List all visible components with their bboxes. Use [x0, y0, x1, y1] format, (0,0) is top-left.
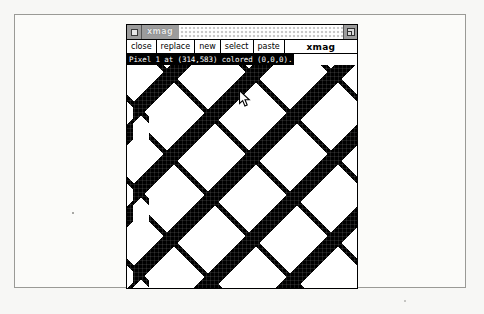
menu-item-replace[interactable]: replace — [157, 40, 196, 53]
scanned-page-background: xmag close replace new select paste xmag… — [0, 0, 484, 314]
menu-item-new[interactable]: new — [195, 40, 221, 53]
menu-item-paste[interactable]: paste — [254, 40, 285, 53]
magnified-pixel-view[interactable] — [127, 65, 357, 288]
pixel-lattice-pattern — [127, 65, 357, 288]
maximize-glyph — [347, 28, 355, 36]
titlebar-stipple-area[interactable] — [179, 25, 343, 39]
menu-item-select[interactable]: select — [221, 40, 254, 53]
xmag-window[interactable]: xmag close replace new select paste xmag… — [126, 24, 358, 289]
maximize-icon[interactable] — [343, 25, 357, 39]
menubar: close replace new select paste xmag — [127, 40, 357, 54]
pixel-info-text: Pixel 1 at (314,583) colored (0,0,0). — [127, 54, 294, 65]
window-title: xmag — [142, 25, 179, 39]
window-titlebar[interactable]: xmag — [127, 25, 357, 40]
window-menu-icon[interactable] — [127, 25, 142, 39]
scan-artifact-speck — [404, 300, 406, 302]
status-line: Pixel 1 at (314,583) colored (0,0,0). — [127, 54, 357, 65]
window-menu-glyph — [131, 29, 138, 36]
scan-artifact-speck — [72, 212, 74, 214]
app-name-label: xmag — [285, 40, 357, 53]
menu-item-close[interactable]: close — [127, 40, 157, 53]
